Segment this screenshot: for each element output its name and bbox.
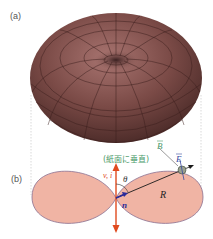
theta-label: θ [123,174,128,184]
torus-3d [30,13,202,143]
B-label: B [157,141,163,151]
B-note-label: (紙面に垂直) [103,154,149,164]
E-label: E [175,154,182,164]
n-label: n [122,200,127,210]
v-i-label: v, i [103,171,112,180]
diagram-canvas: B (紙面に垂直) E v, i θ R n [0,0,213,239]
R-label: R [159,189,166,200]
